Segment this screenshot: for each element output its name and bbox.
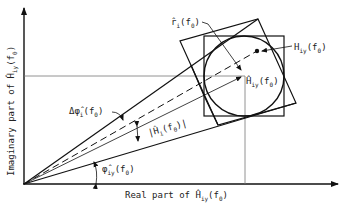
phi-hat-label: φ̂iy(f0) bbox=[102, 164, 135, 177]
lower-bound-line bbox=[24, 103, 296, 184]
confidence-region-diagram: r̂i(f0) Hiy(f0) Ĥiy(f0) Δφ̂i(f0) |Ĥi(f0)… bbox=[0, 0, 345, 204]
y-axis-label: Imaginary part of Ĥiy(f0) bbox=[5, 46, 19, 176]
rotated-square bbox=[180, 19, 296, 125]
r-hat-label: r̂i(f0) bbox=[171, 17, 200, 29]
true-value-dot bbox=[255, 49, 259, 53]
phi-angle-arc bbox=[94, 162, 97, 184]
delta-phi-label: Δφ̂i(f0) bbox=[69, 106, 103, 118]
x-axis-label: Real part of Ĥiy(f0) bbox=[125, 189, 228, 203]
H-hat-label: Ĥiy(f0) bbox=[246, 75, 279, 89]
true-value-dashed-line bbox=[24, 51, 257, 184]
H-true-label: Hiy(f0) bbox=[294, 42, 327, 55]
H-true-leader bbox=[262, 46, 292, 51]
upper-bound-line bbox=[24, 19, 258, 184]
